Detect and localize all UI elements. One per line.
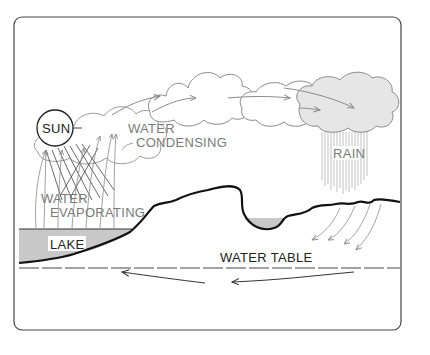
sun-label: SUN	[42, 121, 70, 136]
water-cycle-diagram: SUN WATER CONDENSING RAIN WATER EVAPORAT…	[0, 0, 430, 355]
water-condensing-label-line2: CONDENSING	[136, 135, 227, 150]
water-condensing-label-line1: WATER	[128, 121, 175, 136]
lake-label: LAKE	[50, 237, 84, 252]
water-evaporating-label-line1: WATER	[41, 191, 88, 206]
rain-label: RAIN	[333, 146, 365, 161]
water-table-label: WATER TABLE	[220, 250, 312, 265]
water-evaporating-label-line2: EVAPORATING	[50, 205, 145, 220]
